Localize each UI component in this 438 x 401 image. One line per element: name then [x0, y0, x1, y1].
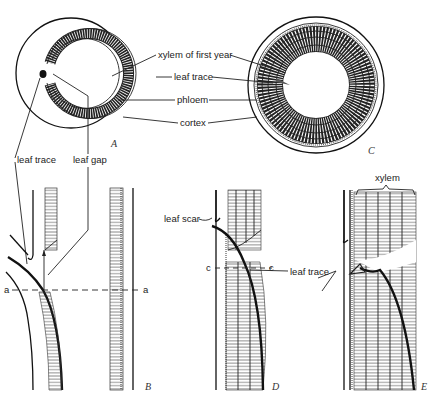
label-phloem: phloem: [177, 94, 208, 105]
panel-d: c c leaf scar D: [164, 190, 280, 392]
label-leaf-trace-c: leaf trace: [174, 71, 213, 82]
label-leaf-gap: leaf gap: [73, 154, 107, 165]
section-marker-a-right: a: [143, 284, 149, 295]
label-cortex: cortex: [180, 117, 206, 128]
section-marker-c-right: c: [269, 262, 274, 273]
section-marker-a-left: a: [4, 284, 10, 295]
panel-c: C: [248, 17, 384, 156]
panel-b: a a B: [4, 188, 151, 392]
label-xylem-first-year: xylem of first year: [158, 49, 232, 60]
label-leaf-trace-left: leaf trace: [17, 154, 56, 165]
label-leaf-scar: leaf scar: [164, 213, 200, 224]
label-xylem: xylem: [375, 172, 400, 183]
panel-a: A: [16, 18, 136, 149]
xylem-ring-a: [47, 29, 136, 119]
leaf-trace-blob-a: [40, 70, 47, 78]
label-leaf-trace-de: leaf trace: [290, 266, 329, 277]
botanical-diagram: A C xylem of first year leaf trace phloe…: [0, 0, 438, 401]
section-marker-c-left: c: [206, 262, 211, 273]
panel-label-c: C: [368, 145, 375, 156]
panel-label-b: B: [145, 381, 151, 392]
panel-e: xylem E: [344, 172, 428, 392]
panel-label-e: E: [420, 381, 427, 392]
panel-label-d: D: [271, 381, 280, 392]
xylem-ring-c: [262, 31, 370, 139]
panel-label-a: A: [110, 138, 118, 149]
